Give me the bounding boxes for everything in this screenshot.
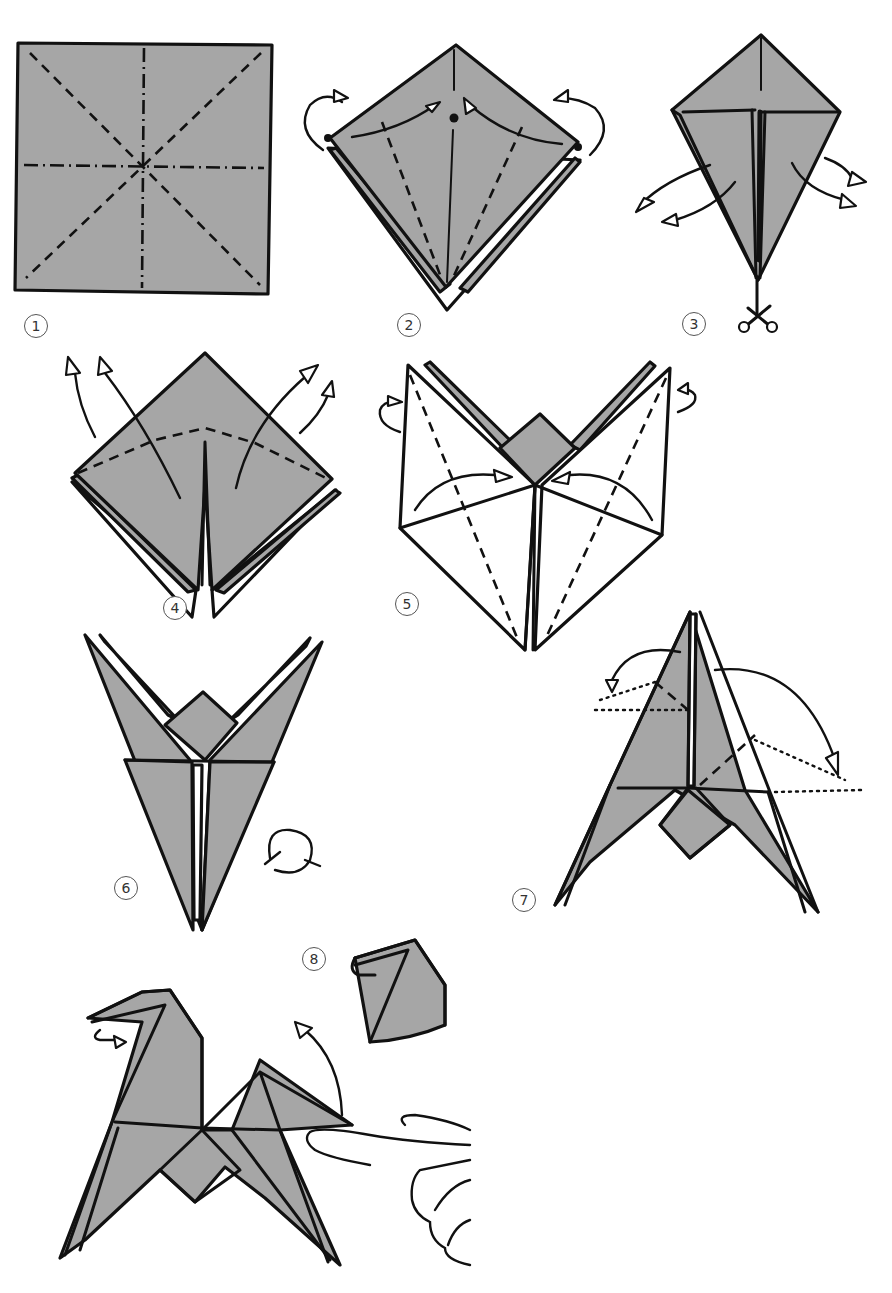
- reverse-fold-illustration: [500, 600, 880, 930]
- step-number-badge: 2: [397, 313, 421, 337]
- petal-fold-prep-illustration: [50, 345, 350, 630]
- step-number-badge: 6: [114, 876, 138, 900]
- step-3-diagram: 3: [620, 30, 892, 350]
- step-number-badge: 7: [512, 888, 536, 912]
- step-number-badge: 5: [395, 592, 419, 616]
- finished-horse-illustration: [30, 930, 500, 1290]
- step-number-badge: 1: [24, 314, 48, 338]
- step-7-diagram: 7: [500, 600, 880, 930]
- kite-fold-illustration: [620, 30, 892, 350]
- square-base-illustration: [290, 30, 620, 340]
- step-1-diagram: 1: [0, 0, 290, 345]
- bird-base-legs-illustration: [70, 620, 350, 940]
- step-number-badge: 4: [163, 596, 187, 620]
- head-detail-view: [352, 940, 445, 1042]
- step-2-diagram: 2: [290, 30, 620, 340]
- turn-over-icon: [260, 820, 330, 890]
- step-8-diagram: 8: [30, 930, 500, 1290]
- square-sheet-illustration: [0, 0, 290, 345]
- step-4-diagram: 4: [50, 345, 350, 630]
- origami-instruction-sheet: 1 2: [0, 0, 892, 1293]
- step-6-diagram: 6: [70, 620, 350, 940]
- step-number-badge: 3: [682, 312, 706, 336]
- step-number-badge: 8: [302, 947, 326, 971]
